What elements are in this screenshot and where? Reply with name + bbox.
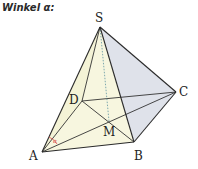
vertex-label-a: A — [28, 149, 38, 163]
angle-alpha-label: α — [53, 137, 57, 144]
vertex-label-m: M — [103, 125, 115, 139]
vertex-label-b: B — [134, 149, 143, 163]
vertex-label-s: S — [95, 11, 103, 25]
pyramid-diagram: α S A B C D M — [0, 0, 198, 169]
vertex-label-d: D — [69, 93, 79, 107]
vertex-label-c: C — [179, 85, 188, 99]
